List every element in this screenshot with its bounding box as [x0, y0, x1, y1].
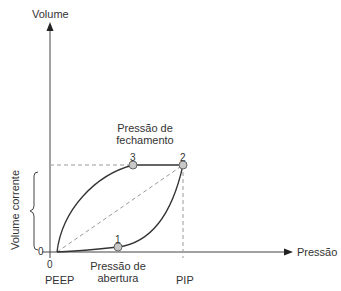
tidal-volume-brace [30, 172, 38, 250]
pip-label: PIP [176, 274, 194, 286]
y-axis-arrow-icon [47, 22, 54, 31]
tidal-volume-label: Volume corrente [9, 165, 21, 255]
point-1-label: 1 [115, 234, 121, 245]
x-axis-label: Pressão [297, 246, 337, 258]
y-origin-tick: 0 [38, 246, 44, 257]
closing-pressure-label: Pressão de fechamento [110, 122, 180, 146]
opening-pressure-line1: Pressão de [88, 260, 148, 272]
closing-pressure-line2: fechamento [110, 134, 180, 146]
point-3-label: 3 [130, 152, 136, 163]
closing-pressure-line1: Pressão de [110, 122, 180, 134]
opening-pressure-label: Pressão de abertura [88, 260, 148, 284]
point-2-label: 2 [180, 152, 186, 163]
opening-pressure-line2: abertura [88, 272, 148, 284]
y-axis-label: Volume [32, 8, 69, 20]
x-origin-tick: 0 [47, 259, 53, 270]
x-axis-arrow-icon [284, 249, 293, 256]
peep-label: PEEP [45, 274, 74, 286]
